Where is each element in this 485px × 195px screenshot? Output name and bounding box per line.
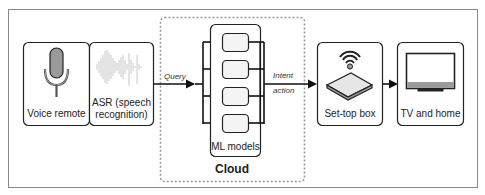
ml-model-3: [223, 88, 249, 106]
ml-model-1: [223, 34, 249, 52]
ml-model-4: [223, 115, 249, 133]
cloud-label: Cloud: [215, 162, 249, 176]
intent-label-line2: action: [273, 86, 295, 95]
ml-models-label: ML models: [211, 141, 260, 152]
voice-remote-node: Voice remote: [24, 43, 90, 126]
asr-label-line2: recognition): [95, 109, 147, 120]
ml-model-2: [223, 61, 249, 79]
set-top-box-node: Set-top box: [318, 43, 383, 126]
query-label: Query: [164, 72, 187, 81]
tv-home-label: TV and home: [400, 108, 460, 119]
asr-node: ASR (speech recognition): [90, 43, 154, 126]
set-top-box-label: Set-top box: [324, 108, 375, 119]
tv-home-node: TV and home: [398, 43, 464, 126]
voice-pipeline-diagram: Voice remote: [0, 0, 485, 195]
voice-remote-label: Voice remote: [27, 108, 86, 119]
ml-models-node: ML models: [211, 25, 261, 157]
asr-label-line1: ASR (speech: [92, 97, 151, 108]
tv-icon: [407, 54, 455, 92]
intent-label-line1: Intent: [273, 71, 294, 80]
